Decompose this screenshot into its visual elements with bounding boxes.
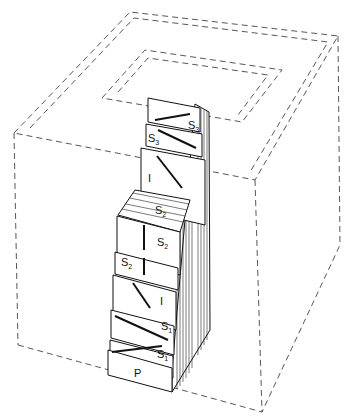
cell-wall-diagram: S3 S3 I S2 S2 S2 I S1 S1 P bbox=[0, 0, 355, 419]
label-p: P bbox=[134, 367, 141, 379]
label-i-lower: I bbox=[160, 295, 163, 307]
label-i-upper: I bbox=[148, 172, 151, 184]
